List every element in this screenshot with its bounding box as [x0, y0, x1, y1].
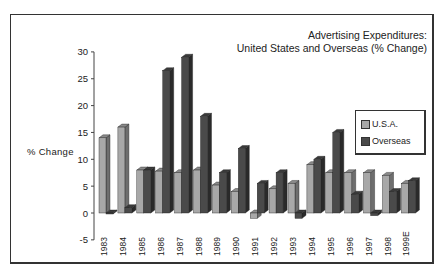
x-tick-label: 1997 — [364, 237, 374, 256]
x-tick-label: 1987 — [175, 237, 185, 256]
bar-overseas — [390, 189, 401, 213]
y-tick-label: 30 — [77, 46, 88, 57]
x-tick-label: 1985 — [137, 237, 147, 256]
legend-label-overseas: Overseas — [372, 136, 411, 146]
bar-overseas — [163, 68, 174, 213]
legend: U.S.A. Overseas — [355, 110, 426, 155]
x-tick-label: 1999E — [401, 231, 411, 256]
y-tick-label: 0 — [83, 208, 88, 219]
overseas-swatch-icon — [361, 137, 370, 146]
x-tick-label: 1995 — [326, 237, 336, 256]
x-tick-label: 1988 — [194, 237, 204, 256]
y-tick-label: 25 — [77, 73, 88, 84]
x-tick-label: 1998 — [383, 237, 393, 256]
bar-usa — [99, 135, 110, 213]
bar-overseas — [257, 180, 268, 213]
bar-usa — [364, 170, 375, 213]
bar-overseas — [238, 146, 249, 213]
x-tick-label: 1992 — [269, 237, 279, 256]
legend-label-usa: U.S.A. — [372, 119, 398, 129]
bar-overseas — [314, 156, 325, 213]
y-tick-label: 5 — [83, 181, 88, 192]
usa-swatch-icon — [361, 120, 370, 129]
bar-usa — [118, 124, 129, 213]
y-tick-label: 20 — [77, 100, 88, 111]
x-tick-label: 1991 — [250, 237, 260, 256]
bar-overseas — [201, 113, 212, 213]
x-tick-label: 1996 — [345, 237, 355, 256]
legend-item-usa: U.S.A. — [361, 119, 398, 129]
bar-overseas — [408, 178, 419, 213]
bar-overseas — [182, 54, 193, 213]
y-tick-label: 10 — [77, 154, 88, 165]
x-tick-label: 1984 — [118, 237, 128, 256]
bar-usa — [288, 180, 299, 213]
bar-overseas — [144, 167, 155, 213]
x-tick-label: 1994 — [307, 237, 317, 256]
bar-overseas — [352, 191, 363, 213]
bar-overseas — [276, 170, 287, 213]
x-tick-label: 1989 — [212, 237, 222, 256]
y-tick-label: -5 — [80, 234, 88, 245]
bar-overseas — [219, 170, 230, 213]
bar-overseas — [333, 129, 344, 213]
x-tick-label: 1983 — [99, 237, 109, 256]
y-tick-label: 15 — [77, 127, 88, 138]
x-tick-label: 1990 — [231, 237, 241, 256]
legend-item-overseas: Overseas — [361, 136, 411, 146]
x-tick-label: 1986 — [156, 237, 166, 256]
x-tick-label: 1993 — [288, 237, 298, 256]
